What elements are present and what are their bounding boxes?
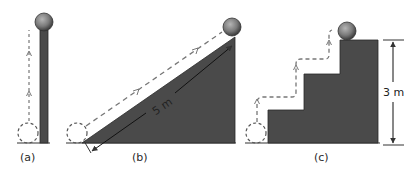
staircase bbox=[268, 40, 378, 143]
panel-label-b: (b) bbox=[132, 151, 148, 164]
height-label: 3 m bbox=[383, 86, 404, 99]
panel-label-c: (c) bbox=[314, 151, 329, 164]
inclined-ramp bbox=[82, 37, 235, 143]
ball-icon bbox=[35, 13, 53, 31]
step-arrow-icon bbox=[255, 99, 260, 104]
start-ball-outline bbox=[67, 123, 87, 143]
vertical-pole bbox=[40, 30, 48, 143]
panel-c: 3 m (c) bbox=[245, 22, 404, 164]
start-ball-outline bbox=[246, 123, 266, 143]
panel-a: (a) bbox=[17, 13, 53, 164]
diagram-canvas: (a) 5 m (b) 3 m (c) bbox=[0, 0, 416, 178]
start-ball-outline bbox=[18, 123, 38, 143]
ball-icon bbox=[338, 22, 356, 40]
panel-label-a: (a) bbox=[20, 151, 35, 164]
ball-icon bbox=[223, 18, 241, 36]
panel-b: 5 m (b) bbox=[66, 18, 241, 164]
